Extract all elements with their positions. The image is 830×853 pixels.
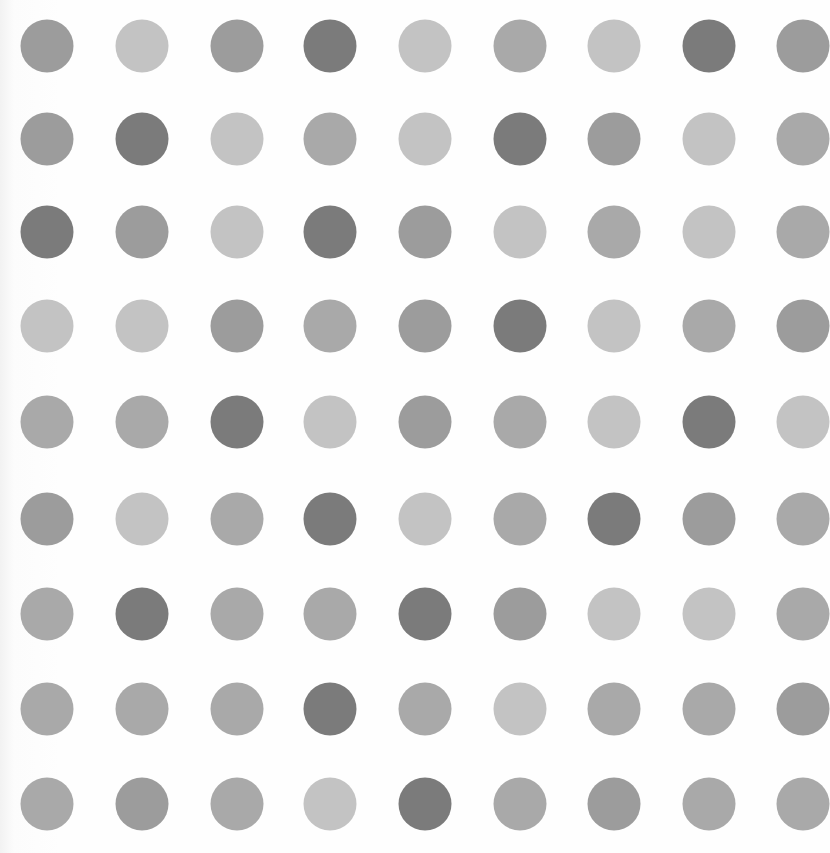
spot-dot bbox=[116, 588, 169, 641]
spot-dot bbox=[116, 493, 169, 546]
spot-dot bbox=[588, 396, 641, 449]
spot-dot bbox=[399, 588, 452, 641]
spot-dot bbox=[304, 206, 357, 259]
spot-dot bbox=[494, 683, 547, 736]
spot-dot bbox=[683, 683, 736, 736]
spot-dot bbox=[21, 300, 74, 353]
spot-dot bbox=[211, 683, 264, 736]
spot-dot bbox=[494, 493, 547, 546]
spot-dot bbox=[399, 20, 452, 73]
spot-dot bbox=[777, 396, 830, 449]
spot-dot bbox=[683, 493, 736, 546]
spot-dot bbox=[494, 300, 547, 353]
spot-dot bbox=[304, 493, 357, 546]
spot-dot bbox=[777, 206, 830, 259]
spot-dot bbox=[116, 300, 169, 353]
spot-dot bbox=[588, 20, 641, 73]
spot-dot bbox=[399, 113, 452, 166]
spot-dot bbox=[683, 113, 736, 166]
spot-dot bbox=[494, 588, 547, 641]
spot-dot bbox=[304, 396, 357, 449]
spot-dot bbox=[21, 206, 74, 259]
spot-dot bbox=[304, 20, 357, 73]
spot-dot bbox=[304, 588, 357, 641]
spot-dot bbox=[399, 683, 452, 736]
spot-dot bbox=[588, 683, 641, 736]
spot-dot bbox=[777, 20, 830, 73]
spot-dot bbox=[21, 588, 74, 641]
spot-dot bbox=[494, 20, 547, 73]
spot-dot bbox=[211, 300, 264, 353]
spot-dot bbox=[399, 300, 452, 353]
spot-dot bbox=[683, 20, 736, 73]
spot-painting-canvas bbox=[0, 0, 830, 853]
spot-dot bbox=[588, 206, 641, 259]
spot-dot bbox=[211, 113, 264, 166]
spot-dot bbox=[588, 493, 641, 546]
spot-dot bbox=[116, 20, 169, 73]
spot-dot bbox=[304, 778, 357, 831]
spot-dot bbox=[588, 778, 641, 831]
spot-dot bbox=[116, 206, 169, 259]
spot-dot bbox=[211, 206, 264, 259]
spot-dot bbox=[211, 588, 264, 641]
spot-dot bbox=[588, 113, 641, 166]
spot-dot bbox=[211, 778, 264, 831]
spot-dot bbox=[21, 493, 74, 546]
spot-dot bbox=[588, 300, 641, 353]
spot-dot bbox=[116, 396, 169, 449]
spot-dot bbox=[683, 778, 736, 831]
spot-dot bbox=[304, 683, 357, 736]
spot-dot bbox=[683, 300, 736, 353]
spot-dot bbox=[777, 300, 830, 353]
spot-dot bbox=[777, 683, 830, 736]
spot-dot bbox=[494, 778, 547, 831]
spot-dot bbox=[494, 396, 547, 449]
spot-dot bbox=[777, 778, 830, 831]
spot-dot bbox=[211, 493, 264, 546]
spot-dot bbox=[116, 683, 169, 736]
spot-dot bbox=[21, 778, 74, 831]
spot-dot bbox=[777, 588, 830, 641]
spot-dot bbox=[304, 300, 357, 353]
spot-dot bbox=[21, 396, 74, 449]
spot-dot bbox=[494, 206, 547, 259]
spot-dot bbox=[494, 113, 547, 166]
spot-dot bbox=[683, 206, 736, 259]
spot-dot bbox=[588, 588, 641, 641]
spot-dot bbox=[777, 113, 830, 166]
spot-dot bbox=[399, 493, 452, 546]
spot-dot bbox=[399, 396, 452, 449]
spot-dot bbox=[683, 396, 736, 449]
spot-dot bbox=[399, 206, 452, 259]
spot-dot bbox=[116, 113, 169, 166]
spot-dot bbox=[304, 113, 357, 166]
spot-dot bbox=[683, 588, 736, 641]
spot-dot bbox=[399, 778, 452, 831]
spot-dot bbox=[211, 20, 264, 73]
spot-dot bbox=[21, 683, 74, 736]
spot-dot bbox=[211, 396, 264, 449]
spot-dot bbox=[116, 778, 169, 831]
spot-dot bbox=[21, 20, 74, 73]
spot-dot bbox=[21, 113, 74, 166]
spot-dot bbox=[777, 493, 830, 546]
